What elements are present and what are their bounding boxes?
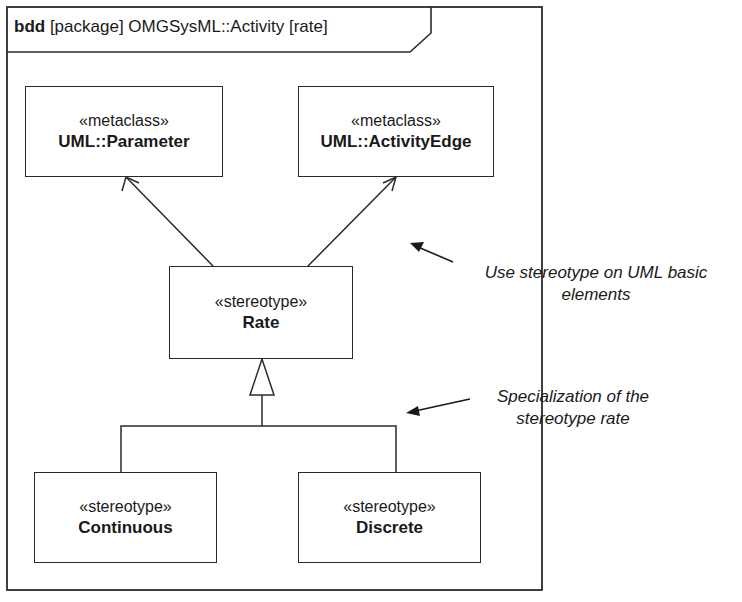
block-stereotype: «metaclass» [351,110,441,131]
block-uml-activityedge[interactable]: «metaclass» UML::ActivityEdge [298,86,494,177]
annotation-line: Use stereotype on UML basic [455,262,737,284]
block-stereotype: «stereotype» [79,496,172,517]
filled-arrowhead-icon [410,242,424,252]
annotation-specialization: Specialization of the stereotype rate [470,386,676,430]
block-stereotype: «stereotype» [343,496,436,517]
block-name: UML::Parameter [58,131,189,153]
note-arrow-line [418,247,453,262]
block-name: Discrete [356,517,423,539]
block-stereotype: «metaclass» [79,110,169,131]
block-name: Rate [243,312,280,334]
annotation-stereotype-usage: Use stereotype on UML basic elements [455,262,737,306]
filled-arrowhead-icon [406,406,420,416]
annotation-line: elements [455,284,737,306]
open-arrowhead-icon [122,177,139,191]
annotation-line: Specialization of the [470,386,676,408]
frame-kind: bdd [14,17,45,36]
frame-name: [package] OMGSysML::Activity [rate] [50,17,328,36]
note-arrow-line [415,399,470,411]
extension-line-activityedge [308,177,396,266]
block-discrete[interactable]: «stereotype» Discrete [298,472,481,563]
block-stereotype: «stereotype» [215,291,308,312]
extension-line-parameter [126,177,213,266]
block-continuous[interactable]: «stereotype» Continuous [34,472,217,563]
generalization-branch [121,426,396,472]
annotation-line: stereotype rate [470,408,676,430]
generalization-triangle-icon [250,359,274,395]
block-name: UML::ActivityEdge [320,131,471,153]
block-uml-parameter[interactable]: «metaclass» UML::Parameter [25,86,223,177]
frame-title: bdd [package] OMGSysML::Activity [rate] [14,17,328,37]
block-name: Continuous [78,517,172,539]
block-rate[interactable]: «stereotype» Rate [169,266,353,359]
